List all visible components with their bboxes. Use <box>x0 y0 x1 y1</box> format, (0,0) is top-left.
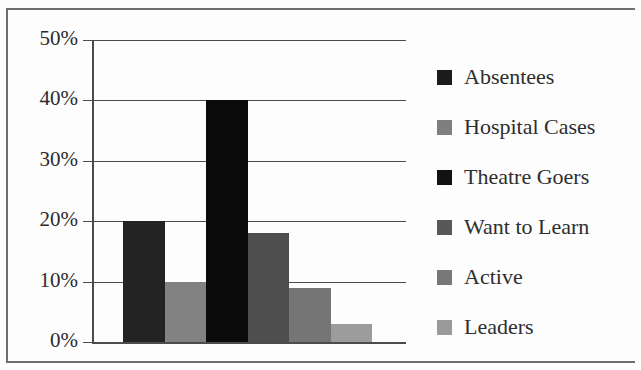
legend-swatch-icon <box>437 70 452 85</box>
bar-hospital-cases <box>165 282 207 342</box>
legend-item-label: Active <box>464 266 523 288</box>
legend-swatch-icon <box>437 320 452 335</box>
bar-want-to-learn <box>248 233 290 342</box>
bar-group <box>123 40 373 342</box>
legend-item-label: Theatre Goers <box>464 166 589 188</box>
legend-swatch-icon <box>437 220 452 235</box>
legend-item-want-to-learn[interactable]: Want to Learn <box>437 202 637 252</box>
legend-item-label: Want to Learn <box>464 216 589 238</box>
chart-figure: 50%40%30%20%10%0% AbsenteesHospital Case… <box>0 0 641 370</box>
y-axis-tick-label: 0% <box>50 328 78 353</box>
legend-swatch-icon <box>437 270 452 285</box>
bar-active <box>289 288 331 342</box>
figure-frame-top <box>6 8 635 10</box>
legend-swatch-icon <box>437 120 452 135</box>
legend-item-leaders[interactable]: Leaders <box>437 302 637 352</box>
y-axis-tick-label: 20% <box>40 207 79 232</box>
y-axis-tick <box>83 40 93 41</box>
legend-item-label: Leaders <box>464 316 534 338</box>
y-axis-tick-label: 30% <box>40 147 79 172</box>
legend-item-hospital-cases[interactable]: Hospital Cases <box>437 102 637 152</box>
y-axis-tick <box>83 282 93 283</box>
y-axis-tick-label: 10% <box>40 268 79 293</box>
bar-leaders <box>331 324 373 342</box>
legend-item-active[interactable]: Active <box>437 252 637 302</box>
x-axis-baseline <box>92 342 406 344</box>
legend-item-label: Hospital Cases <box>464 116 595 138</box>
legend-item-label: Absentees <box>464 66 554 88</box>
legend-item-absentees[interactable]: Absentees <box>437 52 637 102</box>
y-axis-tick-labels: 50%40%30%20%10%0% <box>0 0 78 370</box>
legend-swatch-icon <box>437 170 452 185</box>
y-axis-tick <box>83 161 93 162</box>
y-axis-tick-label: 50% <box>40 26 79 51</box>
figure-frame-bottom <box>6 361 635 363</box>
bar-theatre-goers <box>206 100 248 342</box>
y-axis-tick-label: 40% <box>40 86 79 111</box>
y-axis-tick <box>83 221 93 222</box>
bar-absentees <box>123 221 165 342</box>
y-axis-line <box>92 40 94 342</box>
legend-item-theatre-goers[interactable]: Theatre Goers <box>437 152 637 202</box>
chart-legend: AbsenteesHospital CasesTheatre GoersWant… <box>437 52 637 352</box>
y-axis-tick <box>83 100 93 101</box>
